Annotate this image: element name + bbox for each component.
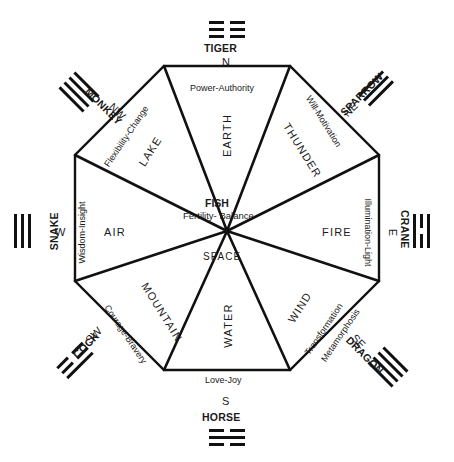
- animal-label-crane: CRANE: [400, 210, 411, 248]
- center-attribute-label: Fertility- Balance: [183, 211, 254, 221]
- trigram-octagon-diagram: FISH Fertility- Balance SPACE TIGER N Po…: [0, 0, 454, 462]
- trigram-crane-e: [416, 214, 433, 248]
- trigram-line-broken: [209, 443, 224, 446]
- element-label-water: WATER: [223, 303, 234, 348]
- trigram-line-solid: [21, 214, 24, 248]
- trigram-line-broken: [209, 35, 224, 38]
- trigram-line-broken: [420, 234, 423, 248]
- trigram-line-broken: [230, 35, 245, 38]
- trigram-line-broken: [209, 429, 224, 432]
- attribute-label-power-authority: Power-Authority: [190, 84, 254, 93]
- element-label-air: AIR: [104, 227, 126, 238]
- attribute-label-love-joy: Love-Joy: [205, 376, 242, 385]
- direction-label-s: S: [222, 396, 229, 407]
- octagon-svg: [0, 0, 454, 462]
- trigram-snake-w: [17, 214, 34, 248]
- trigram-tiger-n: [209, 21, 245, 38]
- trigram-line-broken: [230, 21, 245, 24]
- animal-label-tiger: TIGER: [204, 43, 237, 54]
- animal-label-horse: HORSE: [202, 412, 240, 423]
- direction-label-e: E: [387, 229, 398, 236]
- trigram-line-broken: [209, 28, 224, 31]
- trigram-line-solid: [28, 214, 31, 248]
- trigram-line-broken: [230, 443, 245, 446]
- element-label-earth: EARTH: [222, 114, 233, 157]
- trigram-horse-s: [209, 429, 245, 446]
- trigram-line-solid: [14, 214, 17, 248]
- direction-label-w: W: [55, 227, 65, 238]
- attribute-label-illumination-light: Illumination-Light: [363, 198, 372, 266]
- trigram-line-broken: [209, 21, 224, 24]
- attribute-label-wisdom-insight: Wisdom-Insight: [78, 201, 87, 263]
- trigram-line-broken: [420, 214, 423, 228]
- element-label-fire: FIRE: [322, 227, 352, 238]
- trigram-line-broken: [230, 28, 245, 31]
- trigram-line-solid: [413, 214, 416, 248]
- center-animal-label: FISH: [205, 198, 229, 209]
- trigram-line-solid: [427, 214, 430, 248]
- direction-label-n: N: [222, 57, 230, 68]
- trigram-line-solid: [209, 436, 245, 439]
- center-element-label: SPACE: [203, 252, 241, 262]
- trigram-line-broken: [230, 429, 245, 432]
